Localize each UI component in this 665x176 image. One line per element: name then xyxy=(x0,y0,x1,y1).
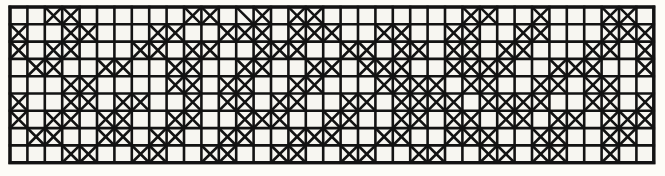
screenshot-page xyxy=(0,0,665,176)
pattern-chart-container xyxy=(0,0,665,176)
filet-crochet-chart xyxy=(0,0,665,176)
